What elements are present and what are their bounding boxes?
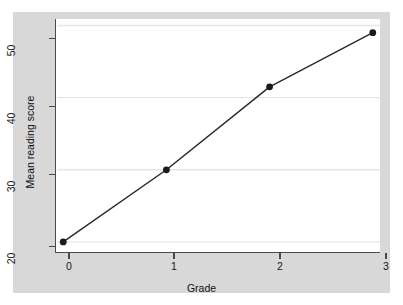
y-axis-tick-label-30: 30 — [6, 174, 17, 200]
data-point-markers — [60, 29, 376, 245]
x-axis-tick-label-1: 1 — [162, 261, 186, 272]
gridlines — [57, 25, 380, 241]
plot-region — [55, 19, 380, 253]
data-point-grade-0 — [60, 239, 67, 246]
y-axis-tick-label-20: 20 — [6, 246, 17, 272]
x-axis-tickmark-1 — [173, 253, 174, 259]
plot-svg — [56, 19, 380, 252]
x-axis-title: Grade — [13, 282, 390, 294]
x-axis-tickmark-0 — [68, 253, 69, 259]
data-series-line — [63, 33, 373, 242]
chart-canvas: 50 40 30 20 0 1 2 3 — [13, 12, 390, 293]
x-axis-tick-label-3: 3 — [374, 261, 398, 272]
x-axis-tick-label-0: 0 — [57, 261, 81, 272]
data-point-grade-1 — [163, 166, 170, 173]
data-point-grade-3 — [369, 29, 376, 36]
chart-figure: 50 40 30 20 0 1 2 3 — [0, 0, 403, 305]
y-axis-tick-label-50: 50 — [6, 38, 17, 64]
y-axis-tick-label-40: 40 — [6, 106, 17, 132]
y-axis-title: Mean reading score — [24, 87, 36, 197]
data-point-grade-2 — [266, 83, 273, 90]
x-axis-tickmark-3 — [385, 253, 386, 259]
x-axis-tick-label-2: 2 — [268, 261, 292, 272]
x-axis-tickmark-2 — [279, 253, 280, 259]
